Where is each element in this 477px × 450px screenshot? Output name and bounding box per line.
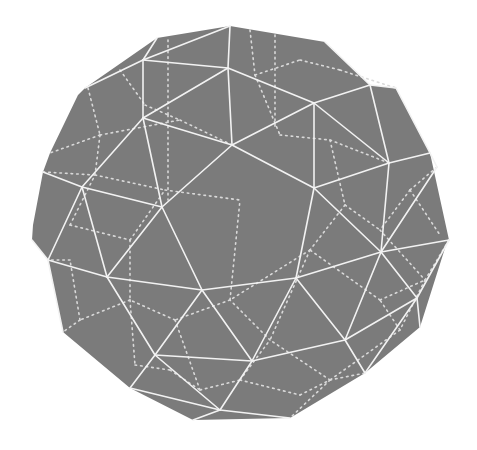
polyhedron-svg bbox=[0, 0, 477, 450]
polyhedron-figure bbox=[0, 0, 477, 450]
